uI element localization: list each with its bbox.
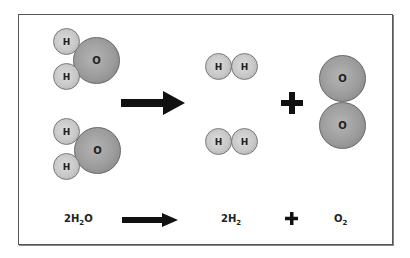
- element-symbol: O: [334, 213, 343, 224]
- equation-product-oxygen: O2: [334, 213, 347, 227]
- atom-label: H: [241, 137, 249, 147]
- hydrogen-atom: H: [53, 153, 80, 180]
- atom-label: H: [63, 127, 71, 137]
- oxygen-atom: O: [73, 37, 120, 84]
- atom-label: O: [92, 55, 101, 66]
- hydrogen-atom: H: [205, 53, 232, 80]
- oxygen-atom: O: [319, 102, 366, 149]
- oxygen-atom: O: [74, 127, 121, 174]
- hydrogen-atom: H: [53, 63, 80, 90]
- atom-label: O: [93, 145, 102, 156]
- atom-label: H: [63, 72, 71, 82]
- plus-icon: [281, 92, 303, 114]
- oxygen-atom: O: [319, 55, 366, 102]
- equation-product-hydrogen: 2H2: [221, 213, 241, 227]
- coefficient: 2: [221, 213, 228, 224]
- atom-label: H: [63, 37, 71, 47]
- hydrogen-atom: H: [205, 128, 232, 155]
- hydrogen-atom: H: [53, 28, 80, 55]
- subscript: 2: [343, 219, 348, 227]
- hydrogen-atom: H: [53, 118, 80, 145]
- atom-label: H: [241, 62, 249, 72]
- atom-label: O: [338, 73, 347, 84]
- hydrogen-atom: H: [231, 128, 258, 155]
- atom-label: H: [215, 62, 223, 72]
- equation-reactant: 2H2O: [64, 213, 93, 227]
- equation-plus-icon: [285, 212, 298, 225]
- reaction-arrow-icon: [121, 91, 185, 115]
- atom-label: H: [215, 137, 223, 147]
- hydrogen-atom: H: [231, 53, 258, 80]
- atom-label: O: [338, 120, 347, 131]
- subscript: 2: [236, 219, 241, 227]
- equation-arrow-icon: [122, 213, 178, 227]
- element-symbol: O: [84, 213, 93, 224]
- coefficient: 2: [64, 213, 71, 224]
- atom-label: H: [63, 162, 71, 172]
